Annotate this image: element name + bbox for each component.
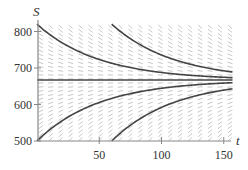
field-segment: [108, 94, 113, 95]
field-segment: [118, 33, 122, 36]
field-segment: [58, 37, 62, 40]
field-segment: [38, 94, 43, 95]
field-segment: [218, 41, 222, 44]
field-segment: [138, 102, 143, 104]
field-segment: [168, 46, 173, 48]
field-segment: [208, 122, 212, 125]
field-segment: [178, 41, 182, 44]
field-segment: [89, 25, 93, 28]
field-segment: [59, 25, 63, 28]
field-segment: [218, 102, 223, 104]
field-segment: [168, 133, 172, 136]
field-segment: [128, 46, 133, 48]
field-segment: [178, 46, 183, 48]
field-segment: [178, 91, 183, 92]
field-segment: [148, 33, 152, 36]
field-segment: [148, 94, 153, 95]
field-segment: [79, 126, 83, 129]
field-segment: [138, 87, 143, 88]
field-segment: [148, 102, 153, 104]
field-segment: [78, 58, 83, 60]
field-segment: [148, 41, 152, 44]
field-segment: [218, 50, 223, 52]
field-segment: [158, 41, 162, 44]
field-segment: [208, 114, 213, 117]
field-segment: [188, 133, 192, 136]
field-segment: [148, 29, 152, 32]
field-segment: [158, 50, 163, 52]
field-segment: [39, 118, 43, 121]
field-segment: [98, 54, 103, 56]
field-segment: [198, 122, 202, 125]
field-segment: [38, 114, 43, 117]
field-segment: [88, 46, 93, 48]
field-segment: [218, 118, 222, 121]
field-segment: [217, 94, 222, 95]
field-segment: [88, 29, 92, 32]
field-segment: [198, 87, 203, 88]
field-segment: [69, 133, 73, 136]
field-segment: [88, 94, 93, 95]
field-segment: [48, 58, 53, 60]
field-segment: [218, 114, 223, 117]
field-segment: [49, 133, 53, 136]
field-segment: [108, 122, 112, 125]
field-segment: [59, 133, 63, 136]
field-segment: [128, 102, 133, 104]
field-segment: [218, 33, 222, 36]
field-segment: [98, 71, 103, 72]
field-segment: [188, 114, 193, 117]
field-segment: [108, 58, 113, 60]
field-segment: [89, 133, 93, 136]
field-segment: [48, 98, 53, 100]
field-segment: [218, 46, 223, 48]
field-segment: [158, 114, 163, 117]
field-segment: [78, 37, 82, 40]
field-segment: [68, 98, 73, 100]
field-segment: [218, 129, 222, 132]
field-segment: [218, 110, 223, 112]
field-segment: [38, 87, 43, 88]
field-segment: [58, 98, 63, 100]
x-tick-label: 150: [215, 148, 233, 162]
field-segment: [178, 54, 183, 56]
field-segment: [38, 46, 43, 48]
field-segment: [198, 25, 202, 28]
field-segment: [178, 50, 183, 52]
field-segment: [168, 71, 173, 72]
field-segment: [138, 94, 143, 95]
field-segment: [188, 94, 193, 95]
field-segment: [108, 114, 113, 117]
field-segment: [128, 29, 132, 32]
field-segment: [48, 71, 53, 72]
field-segment: [228, 126, 232, 129]
field-segment: [138, 33, 142, 36]
x-tick-label: 100: [153, 148, 171, 162]
field-segment: [108, 41, 112, 44]
field-segment: [108, 50, 113, 52]
field-segment: [118, 71, 123, 72]
field-segment: [88, 98, 93, 100]
field-segment: [48, 66, 53, 67]
field-segment: [198, 129, 202, 132]
field-segment: [138, 62, 143, 63]
field-segment: [168, 91, 173, 92]
field-segment: [198, 33, 202, 36]
field-segment: [68, 118, 72, 121]
field-segment: [218, 58, 223, 60]
field-segment: [118, 87, 123, 88]
field-segment: [68, 94, 73, 95]
field-segment: [188, 54, 193, 56]
field-segment: [218, 54, 223, 56]
field-segment: [208, 110, 213, 112]
field-segment: [128, 62, 133, 63]
field-segment: [218, 29, 222, 32]
field-segment: [128, 87, 133, 88]
field-segment: [39, 41, 43, 44]
field-segment: [218, 126, 222, 129]
field-segment: [49, 29, 53, 32]
field-segment: [128, 98, 133, 100]
field-segment: [78, 106, 83, 108]
field-segment: [98, 106, 103, 108]
field-segment: [118, 62, 123, 63]
